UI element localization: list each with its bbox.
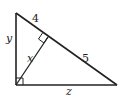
label-y: y	[5, 32, 13, 45]
label-5: 5	[82, 52, 89, 65]
triangle-diagram: 4 y x 5 z	[0, 0, 121, 96]
label-4: 4	[32, 12, 39, 25]
label-z: z	[65, 85, 72, 96]
label-x: x	[27, 52, 34, 65]
